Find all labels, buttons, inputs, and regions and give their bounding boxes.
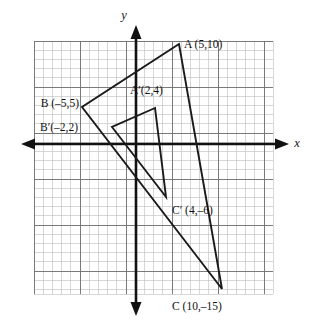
- label-point-a: A (5,10): [184, 38, 223, 51]
- diagram-canvas: y x A (5,10) B (–5,5) C (10,–15) A′(2,4)…: [0, 0, 314, 322]
- label-point-b-prime: B′(–2,2): [40, 121, 78, 134]
- label-point-a-prime-text: A′(2,4): [130, 84, 163, 97]
- coordinate-plane-figure: y x A (5,10) B (–5,5) C (10,–15) A′(2,4)…: [0, 0, 314, 322]
- label-point-c-prime-text: C′ (4,–6): [172, 204, 213, 217]
- label-point-b-prime-text: B′(–2,2): [40, 121, 78, 134]
- label-point-c: C (10,–15): [172, 300, 222, 313]
- label-point-a-text: A (5,10): [184, 38, 223, 51]
- label-point-b-text: B (–5,5): [41, 97, 80, 110]
- y-axis-label: y: [119, 8, 127, 22]
- label-point-a-prime: A′(2,4): [130, 84, 163, 97]
- label-point-b: B (–5,5): [41, 97, 80, 110]
- label-point-c-text: C (10,–15): [172, 300, 222, 313]
- background: [0, 0, 314, 322]
- x-axis-label: x: [293, 136, 300, 150]
- label-point-c-prime: C′ (4,–6): [172, 204, 213, 217]
